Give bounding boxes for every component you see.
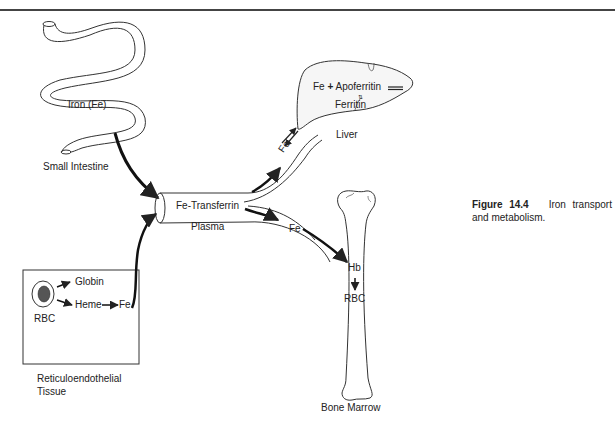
label-globin: Globin xyxy=(75,276,104,287)
label-re-tissue-line1: Reticuloendothelial xyxy=(37,372,122,385)
arrow-fe-to-hb xyxy=(303,229,347,262)
arrow-rbc-to-heme xyxy=(57,300,72,305)
label-heme: Heme xyxy=(75,299,102,310)
small-intestine-shape xyxy=(41,22,146,155)
arrow-intestine-to-plasma xyxy=(115,133,158,198)
label-re-tissue-line2: Tissue xyxy=(37,385,122,398)
arrow-rbc-to-globin xyxy=(57,282,70,287)
plasma-tube-shape xyxy=(155,135,330,262)
label-re-tissue: Reticuloendothelial Tissue xyxy=(37,372,122,398)
label-liver-plus: + xyxy=(327,81,333,92)
label-bone-marrow: Bone Marrow xyxy=(321,402,380,413)
label-iron-fe: Iron (Fe) xyxy=(68,99,106,110)
label-liver: Liver xyxy=(336,129,358,140)
label-rbc-re: RBC xyxy=(34,313,55,324)
label-small-intestine: Small Intestine xyxy=(43,161,109,172)
figure-caption: Figure 14.4 Iron transport and metabolis… xyxy=(472,198,612,224)
label-fe-transferrin: Fe-Transferrin xyxy=(176,200,239,211)
label-ferritin: Ferritin xyxy=(335,99,366,110)
label-plasma: Plasma xyxy=(191,221,224,232)
label-liver-reaction: Fe + Apoferritin xyxy=(313,81,381,92)
label-fe-marrow: Fe xyxy=(289,223,301,234)
label-liver-fe: Fe xyxy=(313,81,325,92)
arrow-re-to-plasma xyxy=(132,214,156,308)
label-fe-re: Fe xyxy=(119,299,131,310)
label-rbc-marrow: RBC xyxy=(344,293,365,304)
label-hb: Hb xyxy=(348,262,361,273)
liver-shape xyxy=(297,61,413,129)
label-apoferritin: Apoferritin xyxy=(336,81,382,92)
figure-number: Figure 14.4 xyxy=(472,199,529,210)
